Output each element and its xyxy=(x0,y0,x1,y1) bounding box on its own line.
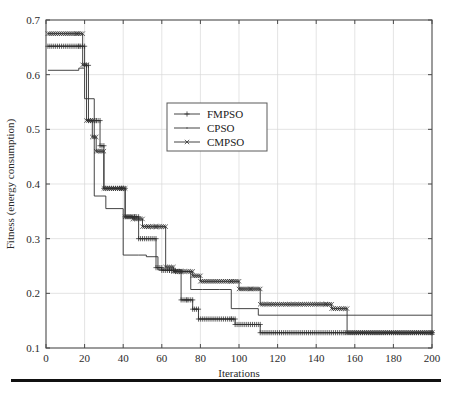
y-tick-label: 0.7 xyxy=(26,14,40,26)
fitness-convergence-chart: 0.10.20.30.40.50.60.7 020406080100120140… xyxy=(0,0,452,395)
figure-container: 0.10.20.30.40.50.60.7 020406080100120140… xyxy=(0,0,452,395)
x-tick-label: 0 xyxy=(43,352,49,364)
y-tick-label: 0.2 xyxy=(26,287,40,299)
x-tick-label: 140 xyxy=(308,352,325,364)
x-tick-label: 80 xyxy=(195,352,207,364)
legend-label: CMPSO xyxy=(207,136,244,148)
x-tick-label: 40 xyxy=(118,352,130,364)
x-tick-label: 160 xyxy=(347,352,364,364)
x-tick-label: 60 xyxy=(156,352,168,364)
y-tick-label: 0.1 xyxy=(26,342,40,354)
x-tick-label: 100 xyxy=(231,352,248,364)
x-tick-label: 200 xyxy=(424,352,441,364)
y-tick-label: 0.5 xyxy=(26,123,40,135)
x-tick-label: 180 xyxy=(385,352,402,364)
x-tick-label: 20 xyxy=(79,352,91,364)
legend-label: CPSO xyxy=(207,122,235,134)
x-axis-title: Iterations xyxy=(218,367,260,379)
x-tick-label: 120 xyxy=(269,352,286,364)
legend-label: FMPSO xyxy=(207,108,243,120)
y-tick-label: 0.3 xyxy=(26,233,40,245)
y-axis-title: Fitness (energy consumption) xyxy=(4,118,17,249)
footer-rule xyxy=(11,379,441,382)
chart-legend: FMPSOCPSOCMPSO xyxy=(167,103,267,151)
y-tick-label: 0.6 xyxy=(26,69,40,81)
chart-background xyxy=(0,0,452,395)
y-tick-label: 0.4 xyxy=(26,178,40,190)
